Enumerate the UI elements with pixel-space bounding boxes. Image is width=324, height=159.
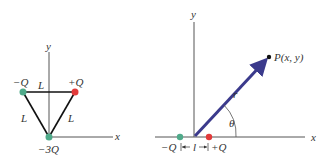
charge-label-neg-3q: −3Q xyxy=(38,143,59,155)
angle-label-theta: θ xyxy=(229,117,235,129)
right-y-axis-label: y xyxy=(190,8,196,20)
vector-label-r: r xyxy=(233,88,238,100)
charge-label-pos-q: +Q xyxy=(68,76,83,88)
side-label-right: L xyxy=(67,112,74,124)
point-label: P(x, y) xyxy=(273,51,304,64)
charge-pos-q-left xyxy=(72,89,79,96)
left-diagram: y x −Q +Q −3Q L L L xyxy=(13,40,120,155)
spacing-label-l: l xyxy=(193,141,196,153)
spacing-dimension: l xyxy=(181,141,208,153)
charge-pos-q-right xyxy=(206,134,212,140)
side-label-left: L xyxy=(20,112,27,124)
point-p xyxy=(267,55,271,59)
charge-neg-3q xyxy=(46,134,53,141)
side-label-top: L xyxy=(37,79,44,91)
dipole-diagrams: y x −Q +Q −3Q L L L y x r θ P(x, y) −Q +… xyxy=(0,0,324,159)
right-charge-label-neg-q: −Q xyxy=(161,141,176,153)
right-charge-label-pos-q: +Q xyxy=(211,141,226,153)
left-x-axis-label: x xyxy=(114,130,120,142)
charge-neg-q-left xyxy=(20,89,27,96)
charge-neg-q-right xyxy=(177,134,183,140)
right-diagram: y x r θ P(x, y) −Q +Q l xyxy=(155,8,316,153)
left-y-axis-label: y xyxy=(45,40,51,52)
right-x-axis-label: x xyxy=(310,131,316,143)
charge-label-neg-q: −Q xyxy=(13,76,28,88)
